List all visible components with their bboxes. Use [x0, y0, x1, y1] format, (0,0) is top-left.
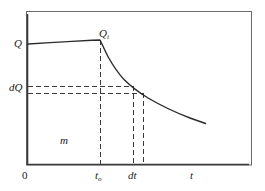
curve-peak-label-subscript: i — [107, 33, 109, 41]
x-axis-label-t0-subscript: o — [98, 175, 102, 183]
x-axis-label-t: t — [190, 170, 193, 181]
decay-curve-figure: Q dQ Qi m 0 to dt t — [0, 0, 265, 191]
y-axis-label-dq: dQ — [9, 82, 22, 93]
chart-svg — [0, 0, 265, 191]
curve-peak-label-base: Q — [99, 27, 107, 39]
chart-background — [0, 0, 265, 191]
origin-label-zero: 0 — [22, 170, 28, 181]
x-axis-label-dt: dt — [128, 170, 137, 181]
y-axis-label-q: Q — [14, 38, 22, 49]
region-label-m: m — [60, 135, 68, 146]
x-axis-label-t0: to — [95, 170, 102, 181]
curve-peak-label-qi: Qi — [99, 28, 109, 39]
